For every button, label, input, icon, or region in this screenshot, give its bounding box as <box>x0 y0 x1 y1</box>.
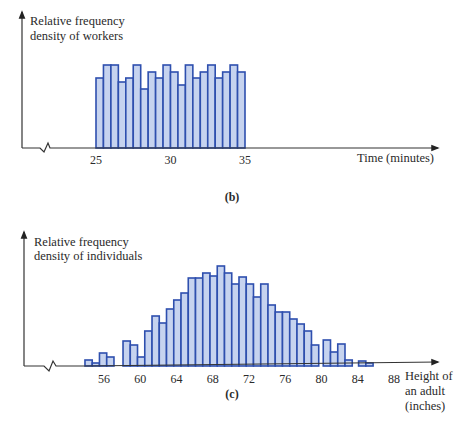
histogram-bar <box>232 284 239 366</box>
x-axis-label-c-line2: an adult <box>405 384 445 398</box>
axis-break-c <box>24 361 85 371</box>
histogram-bar <box>203 273 210 366</box>
histogram-bar <box>323 340 330 366</box>
histogram-bar <box>304 331 311 366</box>
panel-label-b: (b) <box>225 190 240 204</box>
y-axis-label-b-line1: Relative frequency <box>30 14 125 28</box>
histogram-bar <box>138 357 145 366</box>
histogram-bar <box>196 278 203 366</box>
x-tick-label: 30 <box>165 153 177 167</box>
histogram-bar <box>217 266 224 366</box>
histogram-bar <box>178 85 185 148</box>
histogram-bar <box>96 78 103 148</box>
histogram-bar <box>261 284 268 366</box>
histogram-bar <box>268 305 275 366</box>
histogram-bar <box>193 78 200 148</box>
histogram-bar <box>253 297 260 366</box>
histogram-bar <box>152 316 159 366</box>
histogram-bar <box>290 319 297 366</box>
x-tick-label: 60 <box>134 372 146 386</box>
histogram-bar <box>230 65 237 148</box>
histogram-bar <box>359 361 366 366</box>
histogram-bar <box>185 65 192 148</box>
histogram-bar <box>99 353 106 366</box>
histogram-bar <box>297 324 304 366</box>
axis-break-b <box>22 143 96 152</box>
histogram-bar <box>171 72 178 148</box>
histogram-bar <box>215 78 222 148</box>
y-axis-label-b-line2: density of workers <box>30 29 123 43</box>
histogram-figure: Relative frequency density of workers 25… <box>0 0 458 431</box>
histogram-bar <box>246 284 253 366</box>
histogram-bar <box>156 78 163 148</box>
histogram-bar <box>208 65 215 148</box>
bars-c <box>85 266 373 366</box>
x-ticks-c: 566064687276808488 <box>98 372 400 386</box>
histogram-bar <box>85 360 92 366</box>
x-tick-label: 76 <box>279 372 291 386</box>
histogram-bar <box>148 72 155 148</box>
y-axis-label-c-line2: density of individuals <box>34 249 142 263</box>
panel-c: Relative frequency density of individual… <box>24 232 453 413</box>
panel-label-c: (c) <box>225 387 238 401</box>
histogram-bar <box>111 65 118 148</box>
y-axis-label-c-line1: Relative frequency <box>34 235 129 249</box>
histogram-bar <box>126 78 133 148</box>
histogram-bar <box>118 82 125 148</box>
histogram-bar <box>167 309 174 366</box>
x-tick-label: 84 <box>352 372 364 386</box>
histogram-bar <box>275 312 282 366</box>
panel-b: Relative frequency density of workers 25… <box>22 12 438 204</box>
histogram-bar <box>141 89 148 148</box>
histogram-bar <box>223 72 230 148</box>
x-tick-label: 64 <box>170 372 182 386</box>
x-tick-label: 25 <box>90 153 102 167</box>
histogram-bar <box>174 300 181 366</box>
histogram-bar <box>224 273 231 366</box>
x-axis-label-c-line3: (inches) <box>405 399 445 413</box>
histogram-bar <box>107 357 114 366</box>
x-tick-label: 35 <box>239 153 251 167</box>
histogram-bar <box>130 345 137 366</box>
histogram-bar <box>188 278 195 366</box>
histogram-bar <box>210 276 217 366</box>
histogram-bar <box>103 65 110 148</box>
histogram-bar <box>366 363 373 366</box>
x-tick-label: 56 <box>98 372 110 386</box>
x-axis-label-b: Time (minutes) <box>357 151 434 165</box>
histogram-bar <box>331 352 338 366</box>
histogram-bar <box>238 72 245 148</box>
histogram-bar <box>145 331 152 366</box>
histogram-bar <box>282 312 289 366</box>
x-axis-label-c-line1: Height of <box>405 369 453 383</box>
x-tick-label: 80 <box>315 372 327 386</box>
histogram-bar <box>163 65 170 148</box>
histogram-bar <box>159 323 166 366</box>
histogram-bar <box>123 341 130 366</box>
histogram-bar <box>200 72 207 148</box>
bars-b <box>96 65 245 148</box>
x-tick-label: 68 <box>207 372 219 386</box>
histogram-bar <box>181 293 188 366</box>
x-ticks-b: 253035 <box>90 153 251 167</box>
histogram-bar <box>133 65 140 148</box>
histogram-bar <box>239 277 246 366</box>
x-tick-label: 88 <box>388 372 400 386</box>
x-tick-label: 72 <box>243 372 255 386</box>
